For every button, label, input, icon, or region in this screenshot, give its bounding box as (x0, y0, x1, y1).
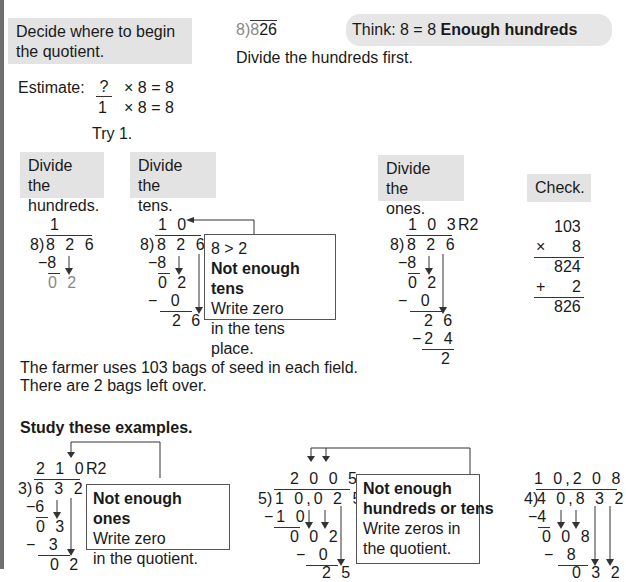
step-header-hundreds: Divide the hundreds. (20, 152, 104, 198)
subtract-1: −1 0 (264, 508, 308, 526)
divisor: 8) (140, 236, 154, 254)
step-header-line1: Divide the (386, 159, 456, 199)
think-text: Think: 8 = 8 Enough hundreds (352, 20, 577, 40)
example-2-note: Not enough hundreds or tens Write zeros … (356, 474, 480, 564)
times-sign: × (536, 238, 545, 256)
remainder-3: 2 (441, 350, 450, 368)
subtract-1: −8 (148, 254, 166, 272)
conclusion-line1: The farmer uses 103 bags of seed in each… (20, 358, 358, 378)
note-line2: Write zero (93, 529, 223, 549)
quotient: 1 (50, 216, 59, 234)
bring-down-arrow-icon (556, 510, 586, 530)
remainder-1: 0 3 (36, 518, 67, 536)
quotient: 2 0 0 5 (290, 470, 360, 488)
bring-down-arrow-icon (336, 506, 346, 570)
step-header-line1: Divide the (28, 156, 96, 196)
tens-note-box: 8 > 2 Not enough tens Write zero in the … (204, 234, 336, 320)
step-box-line2: the quotient. (16, 42, 184, 62)
subtract-2: − 3 (26, 536, 58, 554)
plus-sign: + (536, 278, 545, 296)
step-header-check: Check. (527, 174, 591, 202)
subtract-2: − 8 (544, 546, 576, 564)
quotient-remainder: R2 (458, 216, 478, 234)
pointer-arrow-icon (186, 216, 256, 236)
dividend: 8 2 6 (407, 236, 458, 254)
problem-dividend-first: 8 (250, 21, 259, 38)
note-line4: in the tens place. (211, 319, 329, 359)
note-line1: 8 > 2 (211, 239, 329, 259)
bring-down-arrow-icon (194, 254, 204, 316)
step-header-line2: hundreds. (28, 196, 96, 216)
bring-down-arrow-icon (174, 256, 184, 276)
subtract-3: −2 4 (412, 330, 456, 348)
bring-down-arrow-icon (424, 256, 434, 276)
quotient: 2 1 0 (36, 460, 87, 478)
divisor: 8) (390, 236, 404, 254)
problem-divisor: 8 (236, 21, 245, 38)
estimate-answer: 1 (98, 98, 107, 118)
subtract-2: − 0 (296, 546, 328, 564)
bring-down-arrow-icon (438, 254, 448, 316)
check-sum: 826 (554, 298, 581, 316)
subtract-1: −8 (398, 254, 416, 272)
step-header-tens: Divide the tens. (130, 152, 216, 198)
note-line3: Write zeros in (363, 519, 473, 539)
step-header-line1: Divide the (138, 156, 208, 196)
dividend: 8 2 6 (46, 236, 97, 254)
try-text: Try 1. (92, 124, 132, 144)
remainder-1: 0 0 8 (542, 528, 593, 546)
bring-down-arrow-icon (52, 500, 62, 520)
estimate-line1: × 8 = 8 (124, 78, 174, 98)
remainder-2: 0 2 (50, 556, 81, 574)
dividend: 8 2 6 (157, 236, 208, 254)
quotient: 1 0,2 0 8 (534, 470, 623, 488)
remainder-1: 0 0 2 (290, 528, 341, 546)
divisor: 8) (30, 236, 44, 254)
subtract-2: − 0 (398, 292, 430, 310)
think-prefix: Think: 8 = 8 (352, 21, 436, 38)
subtract-1: −4 (528, 508, 546, 526)
step-box-begin-quotient: Decide where to begin the quotient. (8, 18, 192, 64)
think-bold: Enough hundreds (441, 21, 578, 38)
problem-dividend-rest: 26 (259, 21, 277, 38)
step-header-line1: Check. (535, 178, 583, 198)
step-header-ones: Divide the ones. (378, 155, 464, 201)
intro-problem: 8)826 (236, 20, 277, 40)
examples-heading: Study these examples. (20, 418, 193, 438)
divisor: 3) (18, 480, 32, 498)
conclusion-line2: There are 2 bags left over. (20, 376, 207, 396)
bring-down-arrow-icon (66, 498, 76, 558)
estimate-blank: ? (96, 78, 112, 97)
quotient: 1 0 (158, 216, 189, 234)
example-1-note: Not enough ones Write zero in the quotie… (86, 484, 230, 550)
note-line3: in the quotient. (93, 549, 223, 569)
step-box-line1: Decide where to begin (16, 22, 184, 42)
note-bold: Not enough tens (211, 259, 329, 299)
divisor: 5) (258, 490, 272, 508)
estimate-label: Estimate: (18, 78, 85, 98)
check-multiplier: 8 (572, 238, 581, 256)
note-line3: Write zero (211, 299, 329, 319)
check-product: 824 (554, 258, 581, 276)
note-bold-1: Not enough (363, 479, 473, 499)
bring-down-arrow-icon (64, 256, 74, 276)
bring-down-arrow-icon (304, 510, 334, 530)
quotient: 1 0 3 (408, 216, 459, 234)
dividend: 1 0,0 2 5 (275, 490, 364, 508)
check-remainder: 2 (572, 278, 581, 296)
check-factor: 103 (554, 218, 581, 236)
dividend: 6 3 2 (35, 480, 86, 498)
step-header-line2: tens. (138, 196, 208, 216)
divide-first-text: Divide the hundreds first. (236, 48, 413, 68)
remainder-1: 0 2 (408, 274, 439, 292)
page-edge-bar (0, 0, 4, 569)
note-bold: Not enough ones (93, 489, 223, 529)
remainder-1: 0 2 (158, 274, 189, 292)
subtract-1: −6 (26, 498, 44, 516)
remainder-line: 0 2 (48, 274, 79, 292)
note-line4: the quotient. (363, 539, 473, 559)
subtract: −8 (38, 254, 56, 272)
bring-down-arrow-icon (590, 506, 620, 570)
quotient-remainder: R2 (86, 460, 106, 478)
estimate-line2: × 8 = 8 (124, 98, 174, 118)
